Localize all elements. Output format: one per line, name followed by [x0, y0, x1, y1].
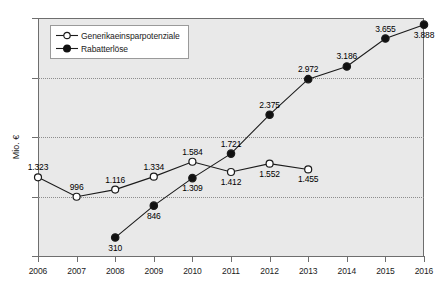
x-tick-mark-2009 [154, 256, 155, 262]
legend-label-rabatt: Rabatterlöse [81, 44, 128, 54]
gridline-1 [38, 197, 424, 198]
x-tick-mark-2016 [424, 256, 425, 262]
data-point-label: 1.552 [259, 169, 280, 179]
legend: Generikaeinsparpotenziale Rabatterlöse [50, 25, 189, 59]
x-tick-mark-2008 [115, 256, 116, 262]
data-point-label: 310 [108, 243, 122, 253]
x-tick-label-2013: 2013 [288, 266, 328, 276]
data-point-label: 1.412 [221, 177, 242, 187]
x-tick-mark-2015 [385, 256, 386, 262]
chart-root: 4,0 3,0 2,0 1,0 0 Mio. € 2006 2007 2008 … [0, 0, 442, 285]
x-tick-mark-2014 [347, 256, 348, 262]
x-tick-label-2016: 2016 [404, 266, 442, 276]
x-tick-label-2006: 2006 [18, 266, 58, 276]
x-tick-mark-2007 [77, 256, 78, 262]
legend-item-rabatt: Rabatterlöse [56, 43, 180, 54]
x-tick-label-2009: 2009 [134, 266, 174, 276]
x-tick-mark-2011 [231, 256, 232, 262]
filled-circle-icon [56, 43, 78, 54]
y-tick-mark-4 [32, 18, 38, 19]
y-tick-mark-2 [32, 137, 38, 138]
gridline-3 [38, 78, 424, 79]
open-circle-icon [56, 30, 78, 41]
x-tick-label-2011: 2011 [211, 266, 251, 276]
x-tick-label-2010: 2010 [172, 266, 212, 276]
x-tick-label-2007: 2007 [57, 266, 97, 276]
x-tick-label-2012: 2012 [250, 266, 290, 276]
x-tick-mark-2006 [38, 256, 39, 262]
x-tick-mark-2013 [308, 256, 309, 262]
x-tick-label-2008: 2008 [95, 266, 135, 276]
data-point-label: 1.116 [105, 175, 125, 185]
data-point-label: 846 [147, 211, 161, 221]
legend-item-generika: Generikaeinsparpotenziale [56, 30, 180, 41]
axis-top-line [38, 18, 424, 19]
data-point-label: 1.584 [182, 147, 203, 157]
x-tick-mark-2010 [192, 256, 193, 262]
data-point-label: 2.972 [298, 64, 319, 74]
x-tick-label-2015: 2015 [365, 266, 405, 276]
data-point-label: 1.334 [144, 162, 165, 172]
data-point-label: 3.888 [414, 30, 435, 40]
data-point-label: 1.323 [28, 162, 49, 172]
x-tick-mark-2012 [270, 256, 271, 262]
data-point-label: 1.455 [298, 174, 319, 184]
data-point-label: 1.721 [221, 139, 242, 149]
data-point-label: 996 [70, 182, 84, 192]
data-point-label: 1.309 [182, 183, 203, 193]
y-axis-title: Mio. € [11, 117, 21, 177]
legend-label-generika: Generikaeinsparpotenziale [81, 31, 180, 41]
y-tick-mark-1 [32, 197, 38, 198]
x-tick-label-2014: 2014 [327, 266, 367, 276]
y-tick-mark-3 [32, 78, 38, 79]
data-point-label: 2.375 [259, 100, 280, 110]
data-point-label: 3.655 [375, 24, 396, 34]
data-point-label: 3.186 [337, 51, 358, 61]
